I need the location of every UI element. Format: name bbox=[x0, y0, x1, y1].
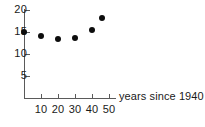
x-axis-tick bbox=[92, 94, 93, 99]
data-point bbox=[38, 33, 44, 39]
scatter-plot-figure: 5101520 1020304050 years since 1940 bbox=[0, 0, 205, 127]
data-point bbox=[99, 15, 105, 21]
y-axis-tick-label: 20 bbox=[3, 4, 27, 15]
x-axis-tick bbox=[58, 94, 59, 99]
x-axis-label: years since 1940 bbox=[119, 90, 204, 102]
y-axis-tick-label: 5 bbox=[3, 70, 27, 81]
plot-area: 5101520 1020304050 years since 1940 bbox=[0, 0, 205, 127]
data-point bbox=[89, 27, 95, 33]
x-axis-line bbox=[24, 98, 116, 99]
data-point bbox=[21, 29, 27, 35]
x-axis-tick bbox=[109, 94, 110, 99]
x-axis-tick bbox=[75, 94, 76, 99]
data-point bbox=[72, 35, 78, 41]
y-axis-tick-label: 10 bbox=[3, 48, 27, 59]
x-axis-tick bbox=[41, 94, 42, 99]
data-point bbox=[55, 36, 61, 42]
x-axis-tick-label: 50 bbox=[98, 104, 120, 115]
